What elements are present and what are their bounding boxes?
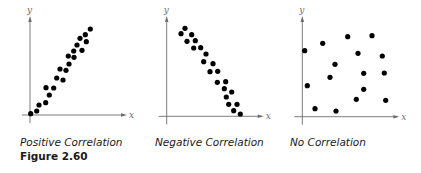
data-point bbox=[43, 85, 48, 90]
figure-label: Figure 2.60 bbox=[20, 150, 88, 162]
data-point bbox=[60, 77, 65, 82]
data-point bbox=[210, 61, 215, 66]
data-point bbox=[223, 79, 228, 84]
data-point bbox=[215, 80, 220, 85]
data-point bbox=[66, 53, 71, 58]
data-point bbox=[66, 61, 71, 66]
y-axis-label: y bbox=[163, 5, 170, 15]
data-point bbox=[302, 48, 307, 53]
y-axis-arrow-icon bbox=[301, 16, 305, 22]
data-point bbox=[193, 38, 198, 43]
x-axis-arrow-icon bbox=[121, 113, 127, 117]
data-point bbox=[305, 83, 310, 88]
data-point bbox=[57, 66, 62, 71]
data-point bbox=[28, 111, 33, 116]
y-axis-arrow-icon bbox=[165, 16, 169, 22]
data-point bbox=[354, 97, 359, 102]
data-point bbox=[327, 75, 332, 80]
data-point bbox=[380, 53, 385, 58]
data-point bbox=[47, 92, 52, 97]
data-point bbox=[361, 87, 366, 92]
data-point bbox=[215, 69, 220, 74]
data-point bbox=[198, 45, 203, 50]
data-point bbox=[238, 111, 243, 116]
scatter-plot-2: yx bbox=[294, 5, 406, 125]
caption-no-correlation: No Correlation bbox=[290, 136, 366, 148]
caption-positive-correlation: Positive Correlation bbox=[20, 136, 123, 148]
data-point bbox=[83, 32, 88, 37]
data-point bbox=[361, 71, 366, 76]
data-point bbox=[312, 106, 317, 111]
data-point bbox=[320, 41, 325, 46]
data-point bbox=[88, 26, 93, 31]
y-axis-label: y bbox=[298, 5, 305, 15]
data-point bbox=[355, 51, 360, 56]
data-point bbox=[229, 89, 234, 94]
data-point bbox=[36, 102, 41, 107]
data-point bbox=[63, 68, 68, 73]
y-axis-arrow-icon bbox=[28, 16, 32, 22]
data-point bbox=[226, 102, 231, 107]
data-point bbox=[207, 69, 212, 74]
data-point bbox=[203, 51, 208, 56]
data-point bbox=[382, 70, 387, 75]
data-point bbox=[34, 108, 39, 113]
data-point bbox=[201, 59, 206, 64]
data-point bbox=[369, 33, 374, 38]
data-point bbox=[178, 31, 183, 36]
scatter-plot-0: yx bbox=[22, 5, 134, 123]
data-point bbox=[222, 86, 227, 91]
data-point bbox=[77, 36, 82, 41]
scatter-plot-1: yx bbox=[159, 5, 271, 124]
data-point bbox=[184, 39, 189, 44]
x-axis-label: x bbox=[266, 111, 271, 121]
data-point bbox=[345, 34, 350, 39]
data-point bbox=[182, 26, 187, 31]
data-point bbox=[54, 75, 59, 80]
x-axis-arrow-icon bbox=[393, 115, 399, 119]
data-point bbox=[332, 62, 337, 67]
data-point bbox=[79, 48, 84, 53]
data-point bbox=[383, 98, 388, 103]
x-axis-label: x bbox=[401, 112, 406, 122]
data-point bbox=[84, 39, 89, 44]
data-point bbox=[71, 48, 76, 53]
data-point bbox=[234, 102, 239, 107]
x-axis-label: x bbox=[129, 110, 134, 120]
data-point bbox=[224, 94, 229, 99]
data-point bbox=[231, 108, 236, 113]
data-point bbox=[51, 85, 56, 90]
data-point bbox=[189, 32, 194, 37]
y-axis-label: y bbox=[26, 5, 33, 15]
caption-negative-correlation: Negative Correlation bbox=[155, 136, 264, 148]
data-point bbox=[333, 108, 338, 113]
data-point bbox=[43, 100, 48, 105]
data-point bbox=[71, 55, 76, 60]
data-point bbox=[74, 42, 79, 47]
x-axis-arrow-icon bbox=[258, 115, 264, 119]
data-point bbox=[191, 45, 196, 50]
